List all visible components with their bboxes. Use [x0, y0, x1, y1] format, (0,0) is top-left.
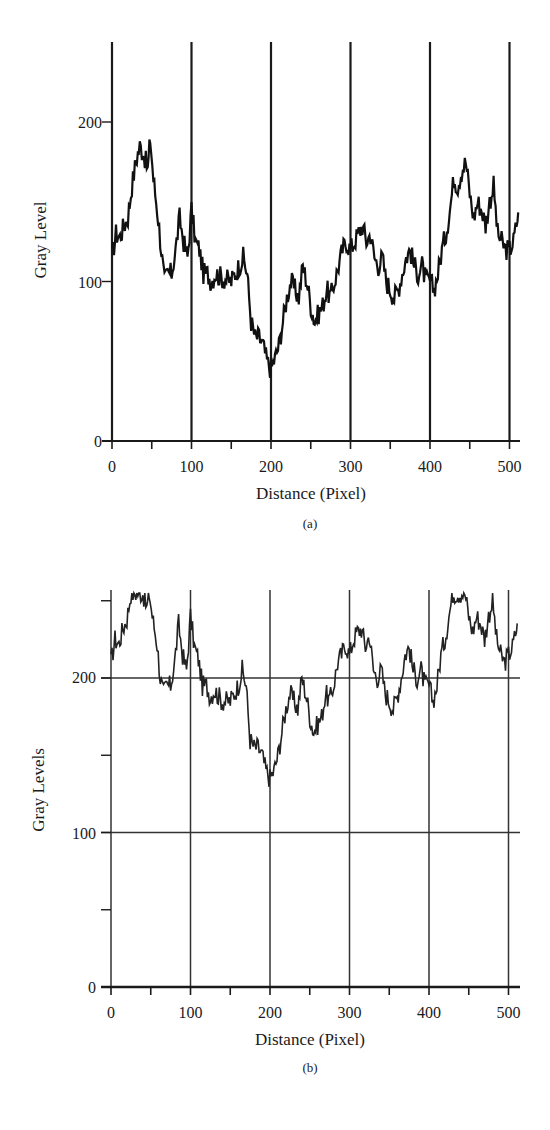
x-tick-200: 200 [259, 458, 283, 475]
chart-a-svg: 200 100 0 0 100 200 300 400 500 Distance… [0, 0, 550, 560]
y-tick-200: 200 [78, 114, 102, 131]
y-tick-100: 100 [78, 274, 102, 291]
y-tick-200: 200 [72, 669, 96, 686]
chart-b-svg: 200 100 0 0 100 200 300 400 500 Distance… [0, 560, 550, 1130]
x-tick-0: 0 [107, 1004, 115, 1021]
x-axis-title: Distance (Pixel) [256, 484, 366, 503]
chart-a-axes [102, 122, 520, 449]
chart-a-vertical-gridlines [112, 42, 510, 441]
y-tick-0: 0 [94, 433, 102, 450]
chart-b-profile-line [111, 593, 517, 787]
x-tick-100: 100 [180, 458, 204, 475]
x-tick-500: 500 [498, 458, 522, 475]
y-axis-title: Gray Levels [29, 748, 48, 832]
y-tick-0: 0 [88, 979, 96, 996]
x-tick-0: 0 [108, 458, 116, 475]
x-tick-400: 400 [418, 458, 442, 475]
chart-a-profile-line [112, 140, 518, 378]
figure-caption: (a) [303, 516, 317, 531]
figure-a: 200 100 0 0 100 200 300 400 500 Distance… [0, 0, 550, 560]
x-tick-400: 400 [417, 1004, 441, 1021]
x-tick-200: 200 [258, 1004, 282, 1021]
chart-b-axes [101, 601, 520, 995]
figure-b: 200 100 0 0 100 200 300 400 500 Distance… [0, 560, 550, 1130]
y-tick-100: 100 [72, 825, 96, 842]
x-axis-title: Distance (Pixel) [255, 1030, 365, 1049]
x-tick-500: 500 [497, 1004, 521, 1021]
y-axis-title: Gray Level [31, 201, 50, 278]
chart-b-gridlines [101, 590, 520, 987]
x-tick-300: 300 [338, 1004, 362, 1021]
x-tick-300: 300 [339, 458, 363, 475]
figure-caption: (b) [302, 1060, 317, 1075]
x-tick-100: 100 [179, 1004, 203, 1021]
